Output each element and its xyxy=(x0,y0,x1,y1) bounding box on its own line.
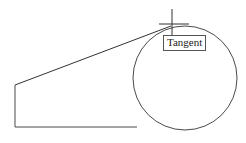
tangent-line xyxy=(15,26,171,85)
tangent-circle-diagram: Tangent xyxy=(0,0,246,143)
tangent-label: Tangent xyxy=(163,35,206,51)
geometry-canvas xyxy=(0,0,246,143)
